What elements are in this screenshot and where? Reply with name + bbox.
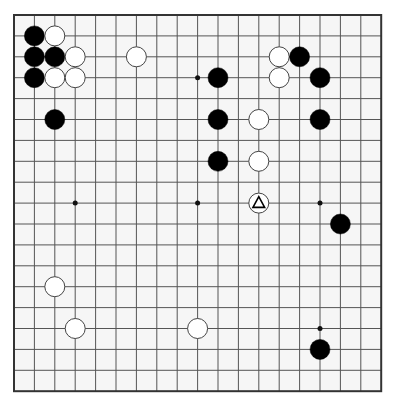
black-stone[interactable]	[24, 26, 44, 46]
go-board[interactable]	[0, 0, 395, 408]
black-stone[interactable]	[310, 68, 330, 88]
white-stone[interactable]	[269, 47, 289, 67]
white-stone[interactable]	[45, 68, 65, 88]
black-stone[interactable]	[24, 68, 44, 88]
black-stone[interactable]	[45, 110, 65, 130]
white-stone[interactable]	[65, 319, 85, 339]
white-stone[interactable]	[45, 26, 65, 46]
white-stone[interactable]	[126, 47, 146, 67]
white-stone[interactable]	[65, 68, 85, 88]
star-point	[73, 201, 78, 206]
white-stone[interactable]	[249, 110, 269, 130]
black-stone[interactable]	[208, 110, 228, 130]
black-stone[interactable]	[24, 47, 44, 67]
white-stone[interactable]	[65, 47, 85, 67]
star-point	[318, 326, 323, 331]
black-stone[interactable]	[45, 47, 65, 67]
black-stone[interactable]	[208, 68, 228, 88]
white-stone[interactable]	[188, 319, 208, 339]
black-stone[interactable]	[330, 214, 350, 234]
black-stone[interactable]	[208, 151, 228, 171]
white-stone[interactable]	[249, 151, 269, 171]
white-stone[interactable]	[45, 277, 65, 297]
star-point	[318, 201, 323, 206]
star-point	[195, 75, 200, 80]
white-stone[interactable]	[269, 68, 289, 88]
black-stone[interactable]	[290, 47, 310, 67]
black-stone[interactable]	[310, 110, 330, 130]
black-stone[interactable]	[310, 339, 330, 359]
star-point	[195, 201, 200, 206]
